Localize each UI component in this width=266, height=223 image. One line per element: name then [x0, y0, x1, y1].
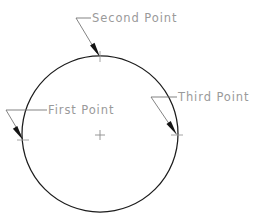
- second-point-label: Second Point: [92, 11, 177, 25]
- annotation-second-point: Second Point: [76, 11, 177, 63]
- third-point-arrowhead: [166, 121, 177, 135]
- second-point-arrowhead: [90, 43, 100, 57]
- diagram-canvas: First Point Second Point Third Point: [0, 0, 266, 223]
- center-mark-icon: [95, 130, 105, 140]
- annotation-third-point: Third Point: [151, 90, 249, 136]
- third-point-label: Third Point: [177, 90, 249, 104]
- first-point-label: First Point: [48, 103, 114, 117]
- three-point-circle-diagram: First Point Second Point Third Point: [0, 0, 266, 223]
